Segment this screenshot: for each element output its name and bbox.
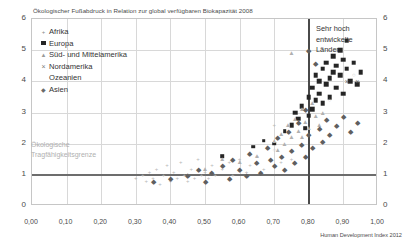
data-point: ◆ [303, 153, 308, 160]
y-tick-label: 6 [383, 14, 397, 22]
data-point: + [186, 178, 190, 184]
data-point [341, 57, 346, 62]
data-point: ○ [328, 97, 332, 103]
data-point: + [176, 175, 180, 181]
legend-item: ×Nordamerika [38, 61, 127, 73]
data-point: ◆ [306, 131, 311, 138]
data-point [310, 85, 315, 90]
data-point: ◆ [341, 112, 346, 119]
legend-label: Süd- und Mittelamerika [49, 51, 127, 59]
data-point [358, 70, 363, 75]
data-point: ◆ [317, 125, 322, 132]
x-axis-label: Human Development Index 2012 [320, 232, 402, 238]
annotation-line: Sehr hoch [316, 24, 353, 35]
y-tick-label: 2 [12, 139, 26, 147]
data-point [320, 67, 325, 72]
y-tick-label: 6 [12, 14, 26, 22]
data-point [317, 79, 322, 84]
legend-item: +Afrika [38, 26, 127, 38]
annotation-line: Tragfähigkeitsgrenze [31, 150, 96, 160]
legend-item: ▲Süd- und Mittelamerika [38, 49, 127, 61]
y-tick-label: 1 [383, 170, 397, 178]
data-point: ○ [352, 72, 356, 78]
chart-legend: +AfrikaEuropa▲Süd- und Mittelamerika×Nor… [38, 26, 127, 96]
data-point: + [141, 172, 145, 178]
legend-label: Nordamerika [49, 63, 92, 71]
data-point: + [272, 122, 276, 128]
data-point: ◆ [168, 174, 173, 181]
legend-marker-icon: ▲ [38, 52, 49, 58]
data-point: ◆ [296, 118, 301, 125]
annotation-line: Ökologische [31, 140, 96, 150]
data-point: ◆ [355, 118, 360, 125]
annotation-highly-developed: Sehr hochentwickelteLänder [316, 24, 353, 56]
data-point: ▲ [288, 134, 294, 141]
data-point: ▲ [281, 140, 287, 147]
data-point [345, 67, 350, 72]
data-point: ◆ [324, 115, 329, 122]
y-tick-label: 5 [12, 45, 26, 53]
data-point: + [148, 169, 152, 175]
x-tick-label: 0,40 [154, 218, 184, 225]
x-tick-label: 0,20 [85, 218, 115, 225]
data-point: ◆ [254, 159, 259, 166]
data-point: ◆ [258, 168, 263, 175]
x-tick-label: 0,10 [51, 218, 81, 225]
data-point [331, 70, 336, 75]
data-point: ◆ [279, 153, 284, 160]
y-tick-label: 1 [12, 170, 26, 178]
legend-marker-icon [38, 40, 49, 46]
data-point: ○ [272, 147, 276, 153]
data-point: + [196, 156, 200, 162]
y-tick-label: 4 [383, 76, 397, 84]
x-tick-label: 0,70 [258, 218, 288, 225]
legend-label: Europa [49, 40, 74, 48]
y-tick-label: 0 [383, 201, 397, 209]
legend-label: Afrika [49, 28, 68, 36]
x-tick-label: 0,50 [189, 218, 219, 225]
data-point: ◆ [237, 165, 242, 172]
data-point: ◆ [320, 137, 325, 144]
data-point: ▲ [309, 100, 315, 107]
legend-marker-icon: + [38, 29, 49, 35]
data-point [324, 82, 329, 87]
data-point: ◆ [348, 128, 353, 135]
data-point: ▲ [288, 50, 294, 57]
y-tick-label: 2 [383, 139, 397, 147]
data-point: ◆ [227, 174, 232, 181]
data-point: ◆ [220, 162, 225, 169]
data-point [334, 85, 339, 90]
data-point: ◆ [185, 171, 190, 178]
data-point [317, 92, 322, 97]
x-gridline [274, 19, 275, 204]
data-point: ◆ [313, 59, 318, 66]
x-tick-label: 1,00 [362, 218, 392, 225]
data-point: ◆ [265, 143, 270, 150]
data-point: ▲ [313, 112, 319, 119]
data-point: + [193, 175, 197, 181]
data-point: ◆ [272, 162, 277, 169]
x-gridline [240, 19, 241, 204]
annotation-carrying-capacity: ÖkologischeTragfähigkeitsgrenze [31, 140, 96, 160]
data-point [324, 60, 329, 65]
data-point: ◆ [289, 146, 294, 153]
legend-item: ◆Asien [38, 84, 127, 96]
data-point: ◆ [203, 178, 208, 185]
data-point: ◆ [196, 165, 201, 172]
x-tick-label: 0,30 [120, 218, 150, 225]
y-tick-label: 4 [12, 76, 26, 84]
data-point [338, 73, 343, 78]
legend-label: Ozeanien [49, 74, 82, 82]
legend-item: Europa [38, 38, 127, 50]
legend-marker-icon: × [38, 63, 49, 70]
annotation-line: Länder [316, 45, 353, 56]
data-point: ◆ [286, 128, 291, 135]
chart-root: Ökologischer Fußabdruck in Relation zur … [0, 0, 408, 245]
data-point [341, 92, 346, 97]
x-tick-label: 0,00 [16, 218, 46, 225]
data-point: + [179, 159, 183, 165]
y-tick-label: 5 [383, 45, 397, 53]
data-point [334, 63, 339, 68]
data-point: + [134, 175, 138, 181]
data-point: ◆ [327, 131, 332, 138]
